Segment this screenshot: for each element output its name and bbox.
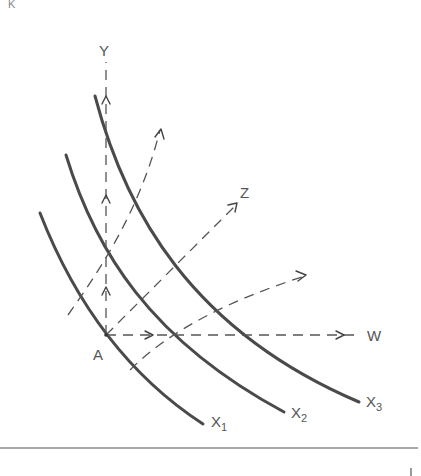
- arrow-upper-curved: [155, 129, 164, 139]
- label-x1: X1: [211, 413, 227, 433]
- isoquant-diagram: K Y Z W A X1 X2 X3: [0, 0, 421, 476]
- corner-mark: K: [8, 0, 16, 10]
- label-z: Z: [240, 184, 249, 201]
- arrow-lower-curved: [296, 271, 306, 281]
- label-x2: X2: [291, 404, 307, 424]
- arrow-w-2: [336, 331, 344, 339]
- curve-x3: [95, 96, 359, 402]
- path-lower-curved: [130, 276, 305, 370]
- curve-x1: [40, 213, 203, 424]
- label-origin-a: A: [93, 346, 103, 363]
- label-x3: X3: [366, 393, 382, 413]
- arrow-z: [228, 203, 237, 212]
- label-w: W: [367, 327, 382, 344]
- curve-x2: [66, 155, 284, 412]
- origin-point: [104, 333, 108, 337]
- arrow-y-3: [102, 96, 110, 104]
- path-z: [106, 205, 236, 335]
- label-y: Y: [99, 42, 109, 59]
